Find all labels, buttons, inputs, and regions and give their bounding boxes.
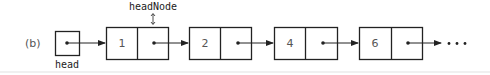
- node-value: 2: [202, 37, 209, 50]
- figure-label: (b): [25, 37, 41, 50]
- list-node: 6: [360, 28, 442, 60]
- head-pointer: head: [55, 32, 105, 71]
- head-label: head: [55, 59, 79, 70]
- node-value: 4: [287, 37, 294, 50]
- list-node: 2: [190, 28, 274, 60]
- updown-arrow-icon: [151, 14, 155, 25]
- node-value: 1: [119, 37, 126, 50]
- node-value: 6: [372, 37, 379, 50]
- list-node: 4: [275, 28, 359, 60]
- head-node-label: headNode: [129, 1, 177, 12]
- continuation-ellipsis-icon: [448, 42, 467, 45]
- linked-list-diagram: (b) head headNode 1 2 4: [0, 0, 490, 75]
- list-node: 1: [107, 28, 189, 60]
